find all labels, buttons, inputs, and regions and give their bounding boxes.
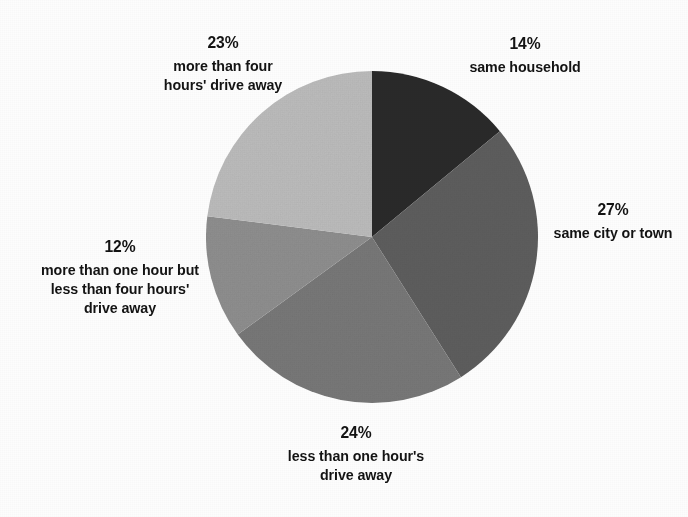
pie-label-description: less than one hour's drive away [242,447,470,485]
pie-label-more-four-hours: 23% more than four hours' drive away [108,33,338,95]
pie-label-same-household: 14% same household [420,34,630,77]
pie-label-description: more than one hour but less than four ho… [15,261,225,318]
pie-label-percent: 23% [117,33,329,54]
pie-label-description: more than four hours' drive away [117,57,329,95]
pie-label-less-one-hour: 24% less than one hour's drive away [232,423,480,485]
pie-slice-more-four-hours[interactable] [207,71,372,237]
pie-label-percent: 27% [544,200,682,221]
pie-chart [205,70,539,404]
pie-label-one-to-four-hours: 12% more than one hour but less than fou… [6,237,234,317]
pie-label-description: same city or town [544,224,682,243]
pie-label-description: same household [428,58,621,77]
chart-page: 14% same household 27% same city or town… [0,0,688,517]
pie-label-percent: 12% [15,237,225,258]
pie-chart-svg [205,70,539,404]
pie-slices-group [206,71,538,403]
pie-label-percent: 14% [428,34,621,55]
pie-label-same-city: 27% same city or town [538,200,688,243]
pie-label-percent: 24% [242,423,470,444]
